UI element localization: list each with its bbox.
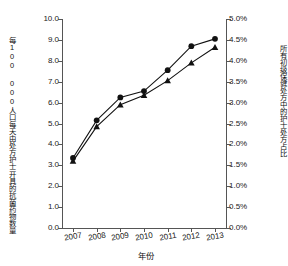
series-line-1 — [73, 39, 215, 158]
data-point-1-2009 — [117, 94, 123, 100]
data-point-2-2010 — [141, 92, 148, 98]
x-tick-label-2009: 2009 — [111, 231, 130, 243]
x-tick-label-2011: 2011 — [158, 231, 177, 243]
data-point-1-2012 — [188, 43, 194, 49]
data-point-2-2012 — [188, 60, 195, 66]
x-tick-label-2010: 2010 — [134, 231, 153, 243]
x-tick-label-2013: 2013 — [205, 231, 224, 243]
x-axis-title: 年份 — [0, 249, 288, 261]
chart-container: 每100 000人口每天由处方护士 开具的抗菌药物数量 所有初级保健处方中的护士… — [0, 0, 288, 266]
data-point-1-2008 — [94, 117, 100, 123]
data-point-1-2013 — [212, 36, 218, 42]
x-tick-label-2007: 2007 — [63, 231, 82, 243]
x-tick-label-2012: 2012 — [182, 231, 201, 243]
data-point-2-2013 — [212, 44, 219, 50]
x-axis-title-text: 年份 — [138, 251, 154, 261]
x-axis-tick-labels: 2007200820092010201120122013 — [0, 232, 288, 248]
data-series-layer — [0, 0, 288, 266]
data-point-1-2011 — [165, 67, 171, 73]
data-point-2-2009 — [117, 101, 124, 107]
x-tick-label-2008: 2008 — [87, 231, 106, 243]
